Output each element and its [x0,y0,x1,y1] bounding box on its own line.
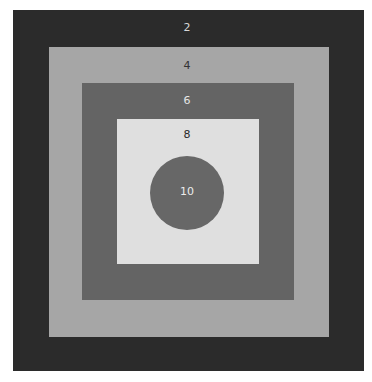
ring-4-label: 4 [172,60,202,72]
ring-2-label: 2 [172,22,202,34]
ring-6-label: 6 [172,95,202,107]
bullseye-10-label: 10 [172,186,202,198]
bullseye-10: 10 [150,156,224,230]
ring-8-label: 8 [172,129,202,141]
